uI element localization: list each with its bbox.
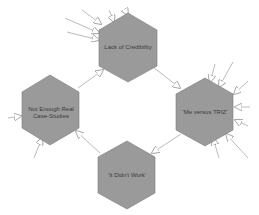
diagram-canvas: Lack of Credibility 'Me versus TRIZ' 'It…: [0, 0, 259, 215]
edge-bottom-to-left: [76, 131, 100, 153]
edge-top-to-right: [153, 67, 180, 88]
node-label-lack-of-credibility: Lack of Credibility: [100, 44, 156, 51]
node-label-not-enough-case-studies: Not Enough Real Case-Studies: [23, 106, 79, 120]
edge-left-to-top: [78, 70, 103, 88]
node-label-it-didnt-work: 'It Didn't Work': [99, 172, 155, 179]
edge-right-to-bottom: [152, 134, 181, 153]
node-label-me-versus-triz: 'Me versus TRIZ': [177, 109, 233, 116]
